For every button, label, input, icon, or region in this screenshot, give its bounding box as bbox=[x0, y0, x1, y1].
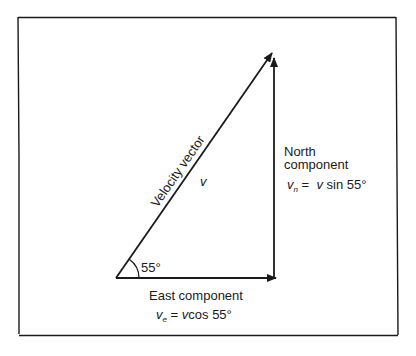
north-formula-sub: n bbox=[294, 185, 298, 194]
east-formula-rhs: cos 55° bbox=[188, 307, 232, 322]
north-component-formula: vn = v sin 55° bbox=[287, 177, 366, 197]
velocity-symbol: v bbox=[200, 174, 207, 189]
angle-arc bbox=[129, 259, 139, 278]
north-component-label-line2: component bbox=[284, 157, 348, 172]
east-component-label: East component bbox=[149, 288, 243, 303]
velocity-vector-arrow bbox=[116, 53, 272, 278]
north-formula-rhs: sin 55° bbox=[327, 177, 367, 192]
east-component-formula: ve = vcos 55° bbox=[156, 307, 232, 327]
north-formula-rhs-var: v bbox=[316, 177, 323, 192]
east-formula-sub: e bbox=[163, 315, 167, 324]
diagram-frame bbox=[19, 18, 399, 157]
north-formula-equals: = bbox=[302, 177, 310, 192]
east-formula-equals: = bbox=[171, 307, 179, 322]
angle-label: 55° bbox=[141, 260, 161, 275]
